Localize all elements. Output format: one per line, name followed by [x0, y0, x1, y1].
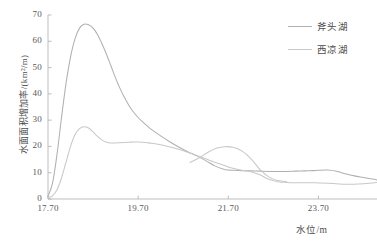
- legend-color-swatch: [288, 49, 312, 50]
- x-tick-label: 19.70: [118, 203, 158, 213]
- series-line-xiliang-lake-secondary-bump: [190, 147, 287, 182]
- legend-item-label: 斧头湖: [317, 19, 348, 33]
- y-tick-label: 70: [18, 9, 42, 19]
- legend-item-futou-lake[interactable]: 斧头湖: [288, 19, 348, 33]
- legend-item-xiliang-lake[interactable]: 西凉湖: [288, 42, 348, 56]
- legend-color-swatch: [288, 26, 312, 27]
- y-axis-title: 水面面积增加率/(km²/m): [17, 30, 30, 180]
- y-tick-label: 0: [18, 193, 42, 203]
- chart-figure: 010203040506070 17.7019.7021.7023.70 水面面…: [0, 0, 377, 243]
- y-axis-ticks: [48, 15, 52, 199]
- legend-item-label: 西凉湖: [317, 42, 348, 56]
- x-axis-title: 水位/m: [296, 222, 327, 236]
- x-tick-label: 21.70: [208, 203, 248, 213]
- x-axis-ticks: [48, 196, 318, 200]
- series-line-xiliang-lake: [48, 127, 377, 198]
- x-tick-label: 17.70: [28, 203, 68, 213]
- x-tick-label: 23.70: [298, 203, 338, 213]
